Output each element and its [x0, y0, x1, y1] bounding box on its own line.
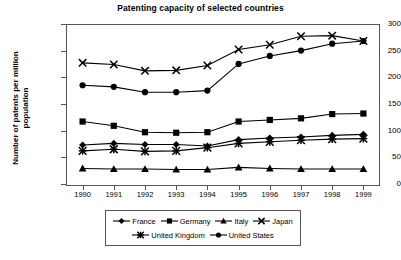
y-tick-label: 300	[377, 19, 401, 28]
data-point-star	[110, 145, 118, 153]
data-point-star	[138, 232, 145, 239]
data-point-square	[204, 129, 210, 135]
data-point-square	[267, 117, 273, 123]
x-tick-mark	[270, 186, 271, 190]
y-tick-label: 250	[377, 46, 401, 55]
legend-label: United States	[229, 231, 274, 240]
data-point-square	[360, 110, 366, 116]
legend-item-united-kingdom[interactable]: United Kingdom	[132, 230, 204, 240]
data-point-square	[173, 130, 179, 136]
data-point-star	[297, 136, 305, 144]
series-layer	[67, 25, 379, 185]
legend-marker-triangle	[215, 216, 232, 226]
data-point-star	[360, 135, 368, 143]
legend-label: Italy	[234, 217, 248, 226]
data-point-star	[79, 147, 87, 155]
legend-item-japan[interactable]: Japan	[253, 216, 292, 226]
legend-label: United Kingdom	[151, 231, 204, 240]
data-point-circle	[329, 41, 335, 47]
data-point-square	[329, 111, 335, 117]
data-point-star	[204, 144, 212, 152]
data-point-circle	[80, 82, 86, 88]
legend-marker-circle	[210, 230, 227, 240]
data-point-circle	[142, 89, 148, 95]
data-point-square	[111, 123, 117, 129]
x-tick-label: 1999	[343, 190, 383, 199]
legend-item-italy[interactable]: Italy	[215, 216, 248, 226]
legend-marker-diamond	[113, 216, 130, 226]
data-point-star	[266, 138, 274, 146]
x-tick-mark	[145, 186, 146, 190]
y-tick-label: 50	[377, 152, 401, 161]
legend-marker-cross	[253, 216, 270, 226]
y-tick-label: 200	[377, 72, 401, 81]
legend-label: Germany	[180, 217, 211, 226]
y-tick-label: 0	[377, 179, 401, 188]
data-point-star	[172, 147, 180, 155]
chart-legend: FranceGermanyItalyJapan United KingdomUn…	[105, 210, 301, 246]
data-point-star	[235, 140, 243, 148]
chart-container: Patenting capacity of selected countries…	[0, 0, 401, 260]
x-tick-mark	[114, 186, 115, 190]
legend-item-germany[interactable]: Germany	[161, 216, 211, 226]
data-point-circle	[111, 84, 117, 90]
data-point-square	[298, 115, 304, 121]
legend-label: France	[132, 217, 155, 226]
series-japan	[79, 32, 367, 75]
x-tick-mark	[239, 186, 240, 190]
y-axis-title: Number of patents per million population	[11, 33, 31, 183]
legend-row: United KingdomUnited States	[110, 228, 296, 242]
data-point-diamond	[119, 218, 125, 224]
legend-label: Japan	[272, 217, 292, 226]
legend-marker-star	[132, 230, 149, 240]
data-point-square	[167, 218, 172, 223]
series-germany	[80, 110, 367, 135]
plot-area	[66, 24, 380, 186]
data-point-diamond	[173, 141, 180, 148]
data-point-star	[328, 135, 336, 143]
data-point-circle	[173, 89, 179, 95]
series-united-kingdom	[79, 135, 368, 156]
series-italy	[79, 164, 368, 173]
x-tick-mark	[332, 186, 333, 190]
data-point-circle	[236, 61, 242, 67]
x-tick-mark	[83, 186, 84, 190]
data-point-square	[80, 118, 86, 124]
series-france	[79, 131, 367, 150]
data-point-circle	[204, 88, 210, 94]
x-tick-mark	[363, 186, 364, 190]
legend-marker-square	[161, 216, 178, 226]
legend-item-france[interactable]: France	[113, 216, 155, 226]
data-point-circle	[360, 38, 366, 44]
x-tick-mark	[207, 186, 208, 190]
data-point-circle	[216, 232, 221, 237]
chart-title: Patenting capacity of selected countries	[0, 3, 401, 13]
y-tick-label: 150	[377, 99, 401, 108]
y-axis-title-line1: Number of patents per million	[11, 51, 20, 164]
x-tick-mark	[176, 186, 177, 190]
data-point-circle	[298, 48, 304, 54]
y-tick-label: 100	[377, 126, 401, 135]
legend-row: FranceGermanyItalyJapan	[110, 214, 296, 228]
y-axis-title-line2: population	[21, 88, 30, 129]
data-point-circle	[267, 53, 273, 59]
data-point-square	[236, 118, 242, 124]
x-tick-mark	[301, 186, 302, 190]
legend-item-united-states[interactable]: United States	[210, 230, 274, 240]
data-point-square	[142, 129, 148, 135]
data-point-star	[141, 148, 149, 156]
data-point-diamond	[141, 141, 148, 148]
